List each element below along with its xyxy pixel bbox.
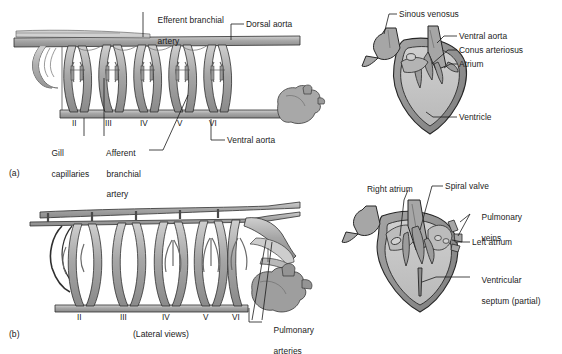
label-right-atrium: Right atrium bbox=[367, 184, 413, 194]
arch-numeral-IV-a: IV bbox=[140, 119, 148, 128]
label-efferent-branchial-artery: Efferent branchial artery bbox=[148, 5, 224, 56]
label-afferent-branchial-artery: Afferent branchial artery bbox=[97, 138, 141, 209]
figure-caption: (Lateral views) bbox=[133, 329, 189, 339]
label-ventral-aorta-a: Ventral aorta bbox=[227, 135, 275, 145]
fish-heart-silhouette bbox=[278, 85, 325, 124]
label-ventricle: Ventricle bbox=[459, 112, 492, 122]
label-ventral-aorta-heart: Ventral aorta bbox=[459, 31, 507, 41]
panel-tag-a: (a) bbox=[9, 168, 20, 178]
arch-numeral-IV-b: IV bbox=[162, 313, 170, 322]
arch-numeral-III-b: III bbox=[120, 313, 127, 322]
label-sinous-venosus: Sinous venosus bbox=[399, 9, 459, 19]
arch-numeral-VI-a: VI bbox=[209, 119, 217, 128]
panel-a-heart-diagram bbox=[362, 14, 467, 134]
panel-b-arch-diagram bbox=[30, 202, 312, 322]
label-dorsal-aorta: Dorsal aorta bbox=[246, 19, 292, 29]
label-gill-capillaries: Gill capillaries bbox=[42, 138, 89, 189]
arch-numeral-V-a: V bbox=[177, 119, 182, 128]
arch-numeral-II-b: II bbox=[77, 313, 82, 322]
arch-numeral-VI-b: VI bbox=[232, 313, 240, 322]
label-atrium: Atrium bbox=[459, 59, 484, 69]
label-pulmonary-arteries: Pulmonary arteries bbox=[264, 315, 314, 354]
arch-numeral-III-a: III bbox=[105, 119, 112, 128]
panel-b-arch-V bbox=[194, 221, 228, 306]
aortic-arch-III bbox=[99, 45, 127, 112]
panel-tag-b: (b) bbox=[9, 329, 20, 339]
panel-b-arch-IV bbox=[154, 222, 188, 306]
label-spiral-valve: Spiral valve bbox=[445, 181, 489, 191]
pulmonary-artery-branch bbox=[244, 218, 296, 270]
ventricular-septum bbox=[418, 268, 422, 296]
label-left-atrium: Left atrium bbox=[472, 237, 512, 247]
aortic-arch-II bbox=[64, 46, 92, 112]
panel-b-arch-III bbox=[112, 223, 146, 306]
arch-numeral-V-b: V bbox=[203, 313, 208, 322]
label-ventricular-septum: Ventricular septum (partial) bbox=[472, 265, 541, 316]
figure-root: Efferent branchial artery Dorsal aorta G… bbox=[0, 0, 562, 354]
panel-b-arch-VI bbox=[228, 220, 247, 306]
vena-cava-vessel bbox=[342, 206, 380, 243]
panel-b-capillary-tuft-IV bbox=[165, 240, 181, 272]
arch-numeral-II-a: II bbox=[72, 119, 77, 128]
ventral-aorta-vessel bbox=[60, 110, 280, 118]
label-conus-arteriosus: Conus arteriosus bbox=[459, 45, 523, 55]
panel-b-heart-diagram bbox=[342, 186, 470, 312]
anterior-head-vessels bbox=[33, 46, 62, 110]
panel-b-arch-II bbox=[68, 224, 102, 306]
panel-b-capillary-tuft-V bbox=[203, 238, 219, 272]
